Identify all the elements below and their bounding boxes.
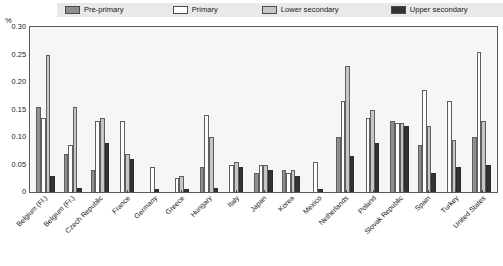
x-axis-tick-mark [428, 190, 429, 193]
bar-group [223, 27, 250, 192]
bar-upper-secondary [375, 143, 380, 193]
x-axis-tick-mark [455, 190, 456, 193]
y-axis-tick-label: 0.20 [12, 78, 26, 85]
x-axis: Belgium (Fl.)Belgium (Fr.)Czech Republic… [29, 193, 498, 263]
x-axis-tick-label: France [111, 195, 132, 216]
bar-upper-secondary [350, 156, 355, 192]
bar-upper-secondary [214, 188, 219, 192]
bar-group [32, 27, 59, 192]
bar-group [59, 27, 86, 192]
legend-label-upper-secondary: Upper secondary [410, 6, 468, 14]
plot-area [29, 26, 498, 193]
y-axis-tick-label: 0.15 [12, 106, 26, 113]
x-axis-tick-label: Japan [250, 195, 269, 214]
y-axis-tick-label: 0.30 [12, 23, 26, 30]
chart-figure: Pre-primary Primary Lower secondary Uppe… [0, 0, 503, 266]
bar-upper-secondary [105, 143, 110, 193]
legend-item-primary: Primary [173, 6, 218, 14]
bar-group [168, 27, 195, 192]
x-axis-tick-mark [400, 190, 401, 193]
bar-lower-secondary [209, 137, 214, 192]
bar-group [114, 27, 141, 192]
x-axis-tick-mark [127, 190, 128, 193]
x-axis-tick-label: Spain [415, 195, 433, 213]
bar-group [277, 27, 304, 192]
bar-upper-secondary [155, 189, 160, 192]
bar-upper-secondary [456, 167, 461, 192]
legend-label-pre-primary: Pre-primary [84, 6, 124, 14]
bar-upper-secondary [50, 176, 55, 193]
y-axis-tick-label: 0.25 [12, 51, 26, 58]
bar-upper-secondary [295, 176, 300, 193]
legend-item-lower-secondary: Lower secondary [262, 6, 339, 14]
legend-item-upper-secondary: Upper secondary [391, 6, 468, 14]
x-axis-tick-label: Poland [357, 195, 378, 216]
legend-swatch-lower-secondary [262, 6, 277, 14]
x-axis-tick-label: Mexico [302, 195, 323, 216]
bar-upper-secondary [404, 126, 409, 192]
bar-upper-secondary [77, 188, 82, 192]
bar-group [86, 27, 113, 192]
bar-primary [313, 162, 318, 192]
bar-upper-secondary [184, 189, 189, 192]
bar-group [359, 27, 386, 192]
x-axis-tick-mark [99, 190, 100, 193]
bar-group [141, 27, 168, 192]
legend-label-primary: Primary [192, 6, 218, 14]
x-axis-tick-mark [373, 190, 374, 193]
x-axis-tick-mark [264, 190, 265, 193]
bar-upper-secondary [486, 165, 491, 193]
bar-lower-secondary [73, 107, 78, 192]
x-axis-tick-label: Turkey [440, 195, 460, 215]
bar-group [332, 27, 359, 192]
legend-item-pre-primary: Pre-primary [65, 6, 124, 14]
x-axis-tick-label: Korea [277, 195, 295, 213]
bar-group [413, 27, 440, 192]
bar-group [195, 27, 222, 192]
x-axis-tick-label: Germany [133, 195, 159, 221]
x-axis-tick-mark [291, 190, 292, 193]
bar-upper-secondary [239, 167, 244, 192]
bar-group [441, 27, 468, 192]
x-axis-tick-mark [181, 190, 182, 193]
y-axis-tick-label: 0.10 [12, 133, 26, 140]
y-axis-tick-label: 0.05 [12, 161, 26, 168]
x-axis-tick-mark [236, 190, 237, 193]
x-axis-tick-mark [209, 190, 210, 193]
bar-lower-secondary [46, 55, 51, 193]
bar-upper-secondary [268, 170, 273, 192]
x-axis-tick-mark [482, 190, 483, 193]
x-axis-tick-label: Hungary [190, 195, 214, 219]
chart-legend: Pre-primary Primary Lower secondary Uppe… [57, 3, 503, 17]
x-axis-tick-mark [72, 190, 73, 193]
y-axis-tick-label: 0 [22, 188, 26, 195]
legend-items: Pre-primary Primary Lower secondary Uppe… [57, 3, 503, 17]
bar-group [386, 27, 413, 192]
bar-group [468, 27, 495, 192]
x-axis-tick-mark [45, 190, 46, 193]
x-axis-tick-label: Italy [227, 195, 241, 209]
bar-group [250, 27, 277, 192]
bar-group [304, 27, 331, 192]
bar-upper-secondary [431, 173, 436, 192]
legend-swatch-pre-primary [65, 6, 80, 14]
legend-swatch-primary [173, 6, 188, 14]
x-axis-tick-mark [154, 190, 155, 193]
y-axis: 0.300.250.200.150.100.050 [0, 26, 29, 193]
x-axis-tick-mark [346, 190, 347, 193]
bar-upper-secondary [130, 159, 135, 192]
legend-swatch-upper-secondary [391, 6, 406, 14]
bar-groups [30, 27, 497, 192]
x-axis-tick-mark [318, 190, 319, 193]
legend-label-lower-secondary: Lower secondary [281, 6, 339, 14]
x-axis-tick-label: Greece [165, 195, 186, 216]
